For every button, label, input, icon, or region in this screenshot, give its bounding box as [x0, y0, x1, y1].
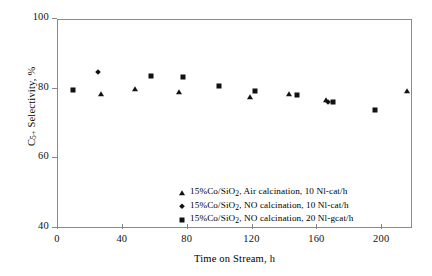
legend-item-1: 15%Co/SiO2, NO calcination, 10 Nl-cat/h — [176, 200, 353, 214]
data-point-s2-6 — [330, 99, 335, 104]
data-point-s2-3 — [217, 83, 222, 88]
x-tick-mark — [381, 224, 382, 229]
legend-item-2: 15%Co/SiO2, NO calcination, 20 Nl-gcat/h — [176, 213, 353, 227]
legend-marker-square-icon — [176, 214, 187, 225]
y-axis-title-suffix: Selectivity, % — [26, 67, 37, 131]
y-axis-title-subscript: 5+ — [29, 130, 38, 138]
y-axis-title-prefix: C — [26, 139, 37, 146]
x-tick-label: 120 — [243, 233, 259, 244]
data-point-s2-7 — [372, 107, 377, 112]
y-tick-mark — [52, 157, 57, 158]
y-axis-title: C5+ Selectivity, % — [26, 11, 39, 201]
y-tick-mark — [52, 18, 57, 19]
y-tick-mark — [52, 88, 57, 89]
legend-marker-diamond-icon — [176, 201, 187, 212]
data-point-s0-2 — [176, 89, 182, 94]
x-tick-mark — [57, 224, 58, 229]
data-point-s0-3 — [247, 95, 253, 100]
data-point-s2-1 — [149, 74, 154, 79]
data-point-s0-0 — [98, 91, 104, 96]
data-point-s0-4 — [286, 91, 292, 96]
x-tick-label: 40 — [116, 233, 127, 244]
legend-marker-triangle-icon — [176, 187, 187, 198]
figure-container: 406080100 04080120160200 C5+ Selectivity… — [0, 0, 432, 276]
data-point-s2-4 — [252, 89, 257, 94]
x-axis-title: Time on Stream, h — [57, 253, 412, 264]
data-point-s0-1 — [132, 87, 138, 92]
y-tick-label: 60 — [38, 150, 49, 161]
legend-label-2: 15%Co/SiO2, NO calcination, 20 Nl-gcat/h — [190, 212, 353, 227]
y-tick-label: 80 — [38, 81, 49, 92]
x-tick-label: 160 — [308, 233, 324, 244]
data-point-s0-6 — [404, 89, 410, 94]
x-tick-mark — [122, 224, 123, 229]
x-tick-label: 200 — [373, 233, 389, 244]
x-tick-label: 0 — [54, 233, 59, 244]
data-point-s2-0 — [71, 88, 76, 93]
legend: 15%Co/SiO2, Air calcination, 10 Nl-cat/h… — [176, 186, 353, 227]
legend-item-0: 15%Co/SiO2, Air calcination, 10 Nl-cat/h — [176, 186, 353, 200]
data-point-s2-5 — [294, 92, 299, 97]
data-point-s2-2 — [181, 75, 186, 80]
x-tick-label: 80 — [181, 233, 192, 244]
